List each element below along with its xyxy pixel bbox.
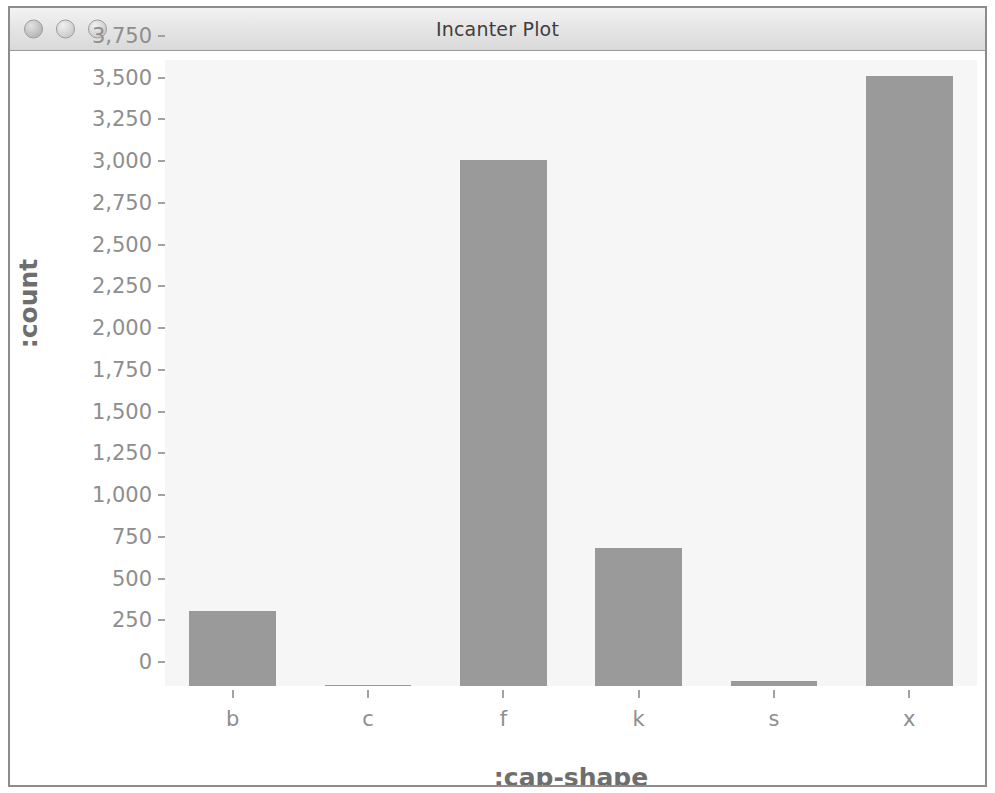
y-axis-tick-label: 500 — [112, 567, 152, 591]
x-axis-tick-mark — [638, 690, 640, 698]
y-axis-tick-mark — [158, 452, 165, 454]
y-axis-tick-mark — [158, 369, 165, 371]
y-axis-tick-label: 3,250 — [92, 107, 152, 131]
y-axis-tick-label: 750 — [112, 525, 152, 549]
bar[interactable] — [189, 611, 276, 686]
y-axis-tick-label: 2,500 — [92, 233, 152, 257]
x-axis-tick-label: k — [609, 707, 669, 731]
y-axis-tick: 1,000 — [92, 483, 165, 507]
chart-canvas: :count 02505007501,0001,2501,5001,7502,0… — [10, 51, 985, 785]
y-axis-tick-label: 1,750 — [92, 358, 152, 382]
bar-slot — [436, 60, 571, 686]
y-axis-tick-label: 2,750 — [92, 191, 152, 215]
y-axis-tick-label: 3,000 — [92, 149, 152, 173]
y-axis-tick-label: 1,250 — [92, 441, 152, 465]
y-axis-tick-label: 250 — [112, 608, 152, 632]
y-axis-tick: 3,250 — [92, 107, 165, 131]
y-axis-tick-mark — [158, 411, 165, 413]
y-axis-tick: 250 — [112, 608, 165, 632]
y-axis-label: :count — [14, 184, 43, 424]
bar-slot — [571, 60, 706, 686]
bar-slot — [842, 60, 977, 686]
x-axis-tick-mark — [232, 690, 234, 698]
x-axis-label: :cap-shape — [165, 763, 977, 787]
x-axis-tick: b — [203, 686, 263, 731]
y-axis-tick-label: 2,000 — [92, 316, 152, 340]
y-axis-tick-mark — [158, 285, 165, 287]
y-axis-tick: 750 — [112, 525, 165, 549]
y-axis-tick-mark — [158, 35, 165, 37]
y-axis-tick: 1,750 — [92, 358, 165, 382]
y-axis-tick: 2,250 — [92, 274, 165, 298]
y-axis-tick-mark — [158, 536, 165, 538]
x-axis-tick-mark — [367, 690, 369, 698]
y-axis-tick-label: 1,000 — [92, 483, 152, 507]
x-axis-tick: f — [473, 686, 533, 731]
y-axis-tick: 0 — [139, 650, 165, 674]
bar[interactable] — [866, 76, 953, 686]
y-axis-tick-mark — [158, 118, 165, 120]
bar[interactable] — [460, 160, 547, 686]
x-axis-tick: x — [879, 686, 939, 731]
y-axis-tick: 3,000 — [92, 149, 165, 173]
y-axis-tick: 1,250 — [92, 441, 165, 465]
y-axis-tick-label: 3,750 — [92, 24, 152, 48]
plot-window: Incanter Plot :count 02505007501,0001,25… — [8, 6, 987, 787]
x-axis-tick-mark — [502, 690, 504, 698]
plot-area: 02505007501,0001,2501,5001,7502,0002,250… — [165, 60, 977, 686]
y-axis-tick-mark — [158, 160, 165, 162]
x-axis-tick: k — [609, 686, 669, 731]
y-axis-tick: 2,000 — [92, 316, 165, 340]
y-axis-tick-mark — [158, 244, 165, 246]
x-axis-tick-label: x — [879, 707, 939, 731]
y-axis-tick: 3,750 — [92, 24, 165, 48]
y-axis-tick: 2,750 — [92, 191, 165, 215]
y-axis-tick-mark — [158, 327, 165, 329]
bar-slot — [165, 60, 300, 686]
x-axis-tick: s — [744, 686, 804, 731]
y-axis-tick-label: 2,250 — [92, 274, 152, 298]
x-axis-tick-label: f — [473, 707, 533, 731]
y-axis-tick-mark — [158, 578, 165, 580]
y-axis-tick: 2,500 — [92, 233, 165, 257]
x-axis-tick: c — [338, 686, 398, 731]
y-axis-tick: 1,500 — [92, 400, 165, 424]
y-axis-tick-mark — [158, 494, 165, 496]
y-axis-tick-mark — [158, 202, 165, 204]
y-axis-tick-mark — [158, 77, 165, 79]
x-axis-tick-mark — [773, 690, 775, 698]
x-axis-tick-mark — [908, 690, 910, 698]
y-axis-tick: 3,500 — [92, 66, 165, 90]
y-axis-tick-label: 1,500 — [92, 400, 152, 424]
y-axis-tick-mark — [158, 661, 165, 663]
y-axis-tick-label: 0 — [139, 650, 152, 674]
y-axis-tick-label: 3,500 — [92, 66, 152, 90]
x-axis-tick-label: s — [744, 707, 804, 731]
bar-slot — [300, 60, 435, 686]
y-axis-tick-mark — [158, 619, 165, 621]
y-axis-tick: 500 — [112, 567, 165, 591]
bar[interactable] — [595, 548, 682, 686]
bar-slot — [706, 60, 841, 686]
x-axis-tick-label: c — [338, 707, 398, 731]
x-axis-tick-label: b — [203, 707, 263, 731]
